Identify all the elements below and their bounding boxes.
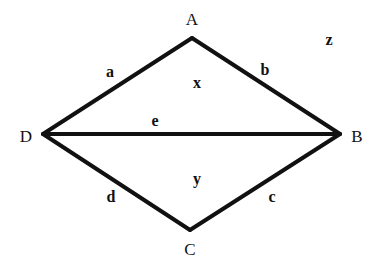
edge-label-b: b — [261, 61, 270, 78]
vertex-label-C: C — [184, 240, 195, 259]
edge-label-e: e — [151, 112, 158, 129]
edge-label-c: c — [268, 188, 275, 205]
region-label-z: z — [325, 31, 332, 48]
edge-a — [43, 38, 192, 134]
vertex-label-A: A — [186, 10, 199, 29]
edges — [43, 38, 340, 230]
edge-label-a: a — [106, 63, 114, 80]
edge-label-d: d — [107, 188, 116, 205]
edge-c — [190, 134, 340, 230]
vertex-label-D: D — [20, 127, 32, 146]
diagram-canvas: A B C D a b c d e x y z — [0, 0, 381, 274]
edge-b — [192, 38, 340, 134]
region-label-y: y — [193, 170, 201, 188]
region-label-x: x — [193, 74, 201, 91]
edge-d — [43, 134, 190, 230]
vertex-label-B: B — [351, 127, 362, 146]
